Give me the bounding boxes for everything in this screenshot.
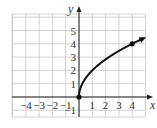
svg-text:−1: −1 <box>64 104 76 116</box>
svg-text:4: 4 <box>71 38 77 50</box>
sqrt-function-graph: −4−3−2−11234−112345 x y <box>0 0 157 128</box>
svg-text:2: 2 <box>103 99 109 111</box>
svg-text:1: 1 <box>71 78 77 90</box>
svg-text:4: 4 <box>129 99 135 111</box>
x-axis-label: x <box>149 98 156 112</box>
svg-text:5: 5 <box>71 25 77 37</box>
svg-text:2: 2 <box>71 64 77 76</box>
y-axis-label: y <box>67 2 74 16</box>
svg-text:3: 3 <box>116 99 122 111</box>
svg-text:1: 1 <box>90 99 96 111</box>
svg-text:−4: −4 <box>20 99 32 111</box>
svg-text:−2: −2 <box>47 99 59 111</box>
svg-text:−3: −3 <box>33 99 45 111</box>
curve <box>76 37 146 99</box>
svg-text:3: 3 <box>71 51 77 63</box>
